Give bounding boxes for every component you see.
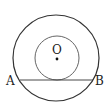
outer-circle xyxy=(13,15,99,101)
concentric-circles-diagram: O A B xyxy=(0,0,111,110)
label-o: O xyxy=(52,43,62,57)
label-b: B xyxy=(95,74,104,88)
center-point xyxy=(56,58,59,61)
label-a: A xyxy=(5,74,15,88)
